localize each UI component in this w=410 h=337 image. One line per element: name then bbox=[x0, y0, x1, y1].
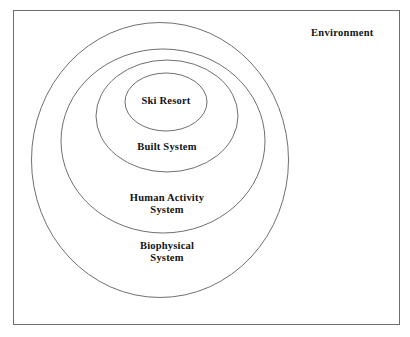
nested-circles-graphic bbox=[0, 0, 410, 337]
ring-label-biophysical-system-line-2: System bbox=[113, 252, 221, 264]
ring-label-built-system: Built System bbox=[117, 141, 217, 153]
ring-label-human-activity-system-line-2: System bbox=[113, 204, 221, 216]
ring-label-ski-resort-line-1: Ski Resort bbox=[116, 95, 216, 107]
ring-built-system bbox=[96, 60, 238, 172]
ring-label-biophysical-system: Biophysical System bbox=[113, 240, 221, 264]
ring-label-built-system-line-1: Built System bbox=[117, 141, 217, 153]
ring-label-ski-resort: Ski Resort bbox=[116, 95, 216, 107]
ring-label-human-activity-system: Human Activity System bbox=[113, 192, 221, 216]
environment-label: Environment bbox=[311, 27, 374, 38]
figure-canvas: Ski Resort Built System Human Activity S… bbox=[0, 0, 410, 337]
ring-label-human-activity-system-line-1: Human Activity bbox=[113, 192, 221, 204]
ring-label-biophysical-system-line-1: Biophysical bbox=[113, 240, 221, 252]
